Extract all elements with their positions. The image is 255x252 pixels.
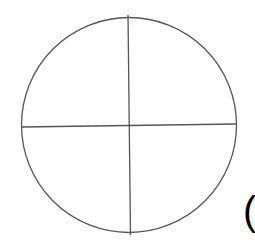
quartered-circle-diagram [0, 0, 255, 252]
cut-off-edge-character: ( [243, 191, 255, 231]
